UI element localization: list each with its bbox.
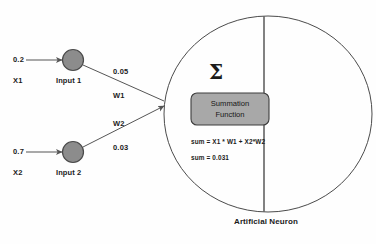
input-2-value: 0.7: [13, 148, 24, 156]
summation-box-label-line2: Function: [191, 109, 269, 120]
input-2-variable: X2: [13, 169, 23, 177]
weight-2-value: 0.03: [113, 144, 128, 152]
summation-result: sum = 0.031: [191, 155, 229, 161]
artificial-neuron-diagram: 0.2 X1 Input 1 0.7 X2 Input 2 0.05 W1 W2…: [0, 0, 376, 244]
input-1-value: 0.2: [13, 56, 24, 64]
input-1-node-label: Input 1: [56, 77, 81, 85]
weight-1-name: W1: [113, 92, 125, 100]
input-1-variable: X1: [13, 77, 23, 85]
summation-box-label-line1: Summation: [191, 98, 269, 109]
sigma-icon: Σ: [209, 62, 223, 82]
weight-2-name: W2: [113, 120, 125, 128]
input-2-node: [63, 142, 84, 163]
weight-1-value: 0.05: [113, 68, 128, 76]
diagram-vector-layer: [0, 0, 376, 244]
input-2-node-label: Input 2: [56, 169, 81, 177]
diagram-caption: Artificial Neuron: [234, 218, 298, 226]
summation-formula: sum = X1 * W1 + X2*W2: [191, 139, 265, 145]
input-1-node: [63, 50, 84, 71]
